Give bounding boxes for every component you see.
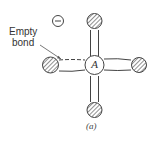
central-atom-label: A	[82, 59, 107, 70]
bond-diagram	[0, 0, 155, 146]
bond-bottom	[91, 76, 99, 102]
bond-top	[91, 30, 99, 56]
figure-caption: (a)	[86, 121, 97, 131]
empty-bond-label-line2: bond	[9, 37, 37, 48]
empty-bond-label-line1: Empty	[9, 26, 37, 37]
atom-right	[132, 58, 147, 73]
atom-bottom	[87, 103, 102, 118]
empty-bond-label: Empty bond	[9, 26, 37, 48]
bond-right	[104, 59, 131, 71]
atom-left	[43, 57, 59, 73]
atom-top	[87, 14, 102, 29]
